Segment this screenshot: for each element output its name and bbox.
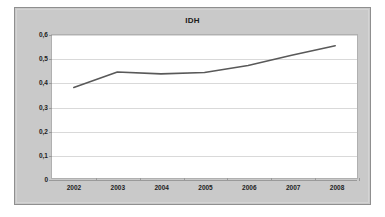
x-tick-mark: [359, 178, 360, 181]
x-tick-label: 2006: [242, 185, 256, 192]
y-tick-label: 0,5: [39, 56, 48, 63]
x-tick-label: 2008: [330, 185, 344, 192]
x-tick-mark: [271, 178, 272, 181]
y-tick-label: 0,2: [39, 128, 48, 135]
plot-area: 0,60,50,40,30,20,10 20022003200420052006…: [51, 34, 358, 179]
y-tick-label: 0,3: [39, 104, 48, 111]
x-tick-mark: [315, 178, 316, 181]
x-tick-label: 2003: [111, 185, 125, 192]
y-tick-label: 0,4: [39, 80, 48, 87]
x-tick-mark: [227, 178, 228, 181]
y-tick-label: 0: [44, 177, 48, 184]
x-tick-label: 2007: [286, 185, 300, 192]
chart-container: IDH 0,60,50,40,30,20,10 2002200320042005…: [14, 7, 371, 205]
series-polyline: [74, 46, 335, 88]
gridline-0: [52, 180, 357, 181]
y-tick-mark: [49, 180, 52, 181]
x-tick-label: 2002: [67, 185, 81, 192]
chart-screenshot: IDH 0,60,50,40,30,20,10 2002200320042005…: [0, 0, 385, 217]
x-tick-mark: [140, 178, 141, 181]
x-tick-label: 2004: [154, 185, 168, 192]
chart-title: IDH: [15, 16, 370, 25]
x-tick-mark: [184, 178, 185, 181]
x-tick-mark: [96, 178, 97, 181]
x-tick-label: 2005: [198, 185, 212, 192]
series-line-idh: [52, 35, 357, 178]
y-tick-label: 0,1: [39, 153, 48, 160]
y-tick-label: 0,6: [39, 32, 48, 39]
